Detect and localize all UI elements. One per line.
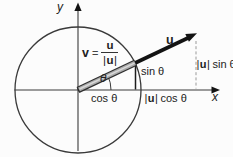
x-axis-label: x — [212, 91, 218, 104]
v-equation-equals: = — [92, 47, 98, 59]
v-equation: v = u |u| — [82, 39, 118, 66]
cos-theta-label: cos θ — [91, 92, 117, 104]
u-cos-vec: u — [148, 92, 155, 104]
u-cos-trig: cos θ — [160, 92, 186, 104]
diagram-canvas — [0, 0, 233, 157]
abs-bar-close: | — [113, 54, 117, 66]
vector-u-label: u — [166, 34, 174, 48]
y-axis-arrowhead-icon — [74, 3, 81, 12]
v-equation-numerator: u — [103, 39, 116, 52]
v-equation-lhs: v — [82, 46, 89, 60]
u-magnitude-sin-theta-label: |u|sin θ — [196, 58, 233, 70]
abs-bar-close: | — [207, 58, 211, 70]
unit-circle-diagram: y x u v = u |u| θ sin θ cos θ |u|cos θ |… — [0, 0, 233, 157]
v-equation-denominator: |u| — [101, 52, 118, 66]
unit-vector-v-highlight — [80, 63, 135, 89]
u-magnitude-cos-theta-label: |u|cos θ — [144, 92, 187, 104]
v-equation-fraction: u |u| — [101, 39, 118, 66]
u-sin-vec: u — [200, 58, 207, 70]
theta-label: θ — [100, 73, 107, 85]
y-axis-label: y — [57, 1, 63, 14]
sin-theta-label: sin θ — [141, 65, 164, 77]
abs-bar-close: | — [155, 92, 159, 104]
u-sin-trig: sin θ — [212, 58, 233, 70]
vector-u-arrowhead-icon — [185, 33, 197, 42]
